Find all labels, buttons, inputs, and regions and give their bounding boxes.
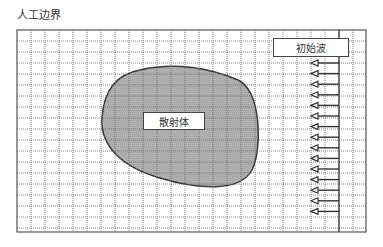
wave-arrow-icon xyxy=(311,71,339,77)
wave-arrow-icon xyxy=(311,177,339,183)
wave-arrow-icon xyxy=(311,208,339,214)
scatterer-label: 散射体 xyxy=(143,112,205,130)
incident-wave-label: 初始波 xyxy=(273,38,349,57)
wave-arrow-icon xyxy=(311,102,339,108)
wave-arrow-icon xyxy=(311,145,339,151)
incident-wave-arrows xyxy=(311,60,339,214)
wave-arrow-icon xyxy=(311,134,339,140)
